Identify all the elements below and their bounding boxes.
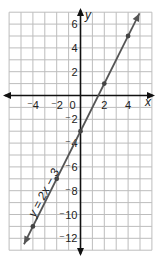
x-tick-label: 4 <box>125 99 131 111</box>
y-tick-label: ⁻12 <box>59 232 77 244</box>
data-point <box>102 81 107 86</box>
y-tick-label: 4 <box>71 42 77 54</box>
data-point <box>126 34 131 39</box>
y-tick-label: ⁻8 <box>65 185 77 197</box>
y-tick-label: 2 <box>71 66 77 78</box>
x-axis-label: x <box>144 95 152 109</box>
data-point <box>31 224 36 229</box>
data-point <box>78 129 83 134</box>
x-tick-label: ⁻2 <box>51 99 63 111</box>
y-tick-label: 6 <box>71 18 77 30</box>
x-tick-label: 2 <box>101 99 107 111</box>
y-tick-label: ⁻6 <box>65 161 77 173</box>
coordinate-plane: ⁻4⁻2024642⁻2⁻4⁻6⁻8⁻10⁻12 x y y = 2x − 3 <box>0 0 158 261</box>
y-tick-label: ⁻2 <box>65 113 77 125</box>
x-tick-label: ⁻4 <box>27 99 39 111</box>
x-tick-label: 0 <box>69 99 75 111</box>
y-tick-label: ⁻10 <box>59 209 77 221</box>
y-axis-label: y <box>84 8 92 22</box>
